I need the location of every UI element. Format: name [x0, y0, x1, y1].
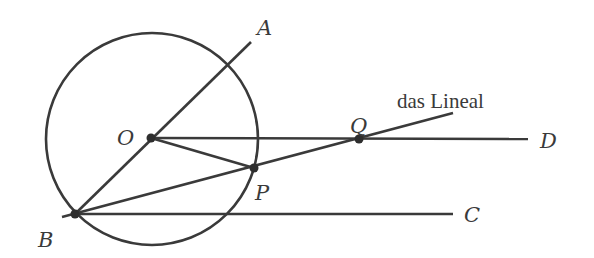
label-a: A [255, 16, 272, 40]
point-o [147, 134, 156, 143]
label-q: Q [350, 114, 367, 138]
segment-op [151, 138, 254, 168]
label-b: B [37, 228, 53, 252]
point-p [250, 164, 259, 173]
label-ruler: das Lineal [397, 89, 484, 113]
label-p: P [254, 181, 270, 205]
point-b [71, 210, 80, 219]
geometry-diagram: A O Q P B C D das Lineal [0, 0, 594, 258]
ray-ba [75, 42, 251, 214]
label-c: C [464, 203, 480, 227]
ray-od [151, 138, 528, 139]
label-d: D [539, 129, 557, 153]
label-o: O [117, 126, 134, 150]
